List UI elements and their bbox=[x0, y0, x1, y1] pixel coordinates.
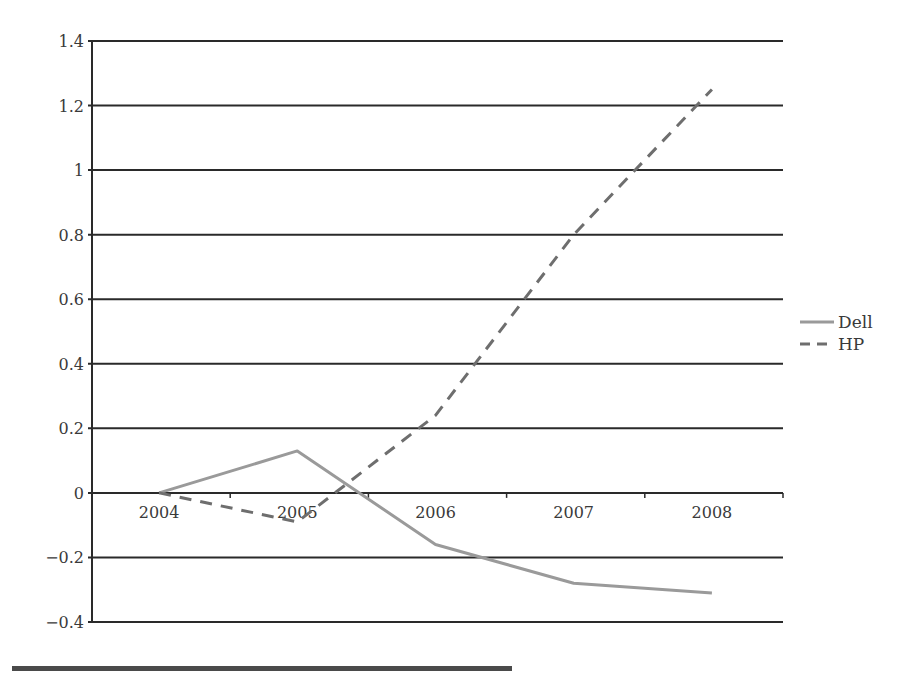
legend-label-hp: HP bbox=[838, 334, 864, 354]
gridlines bbox=[88, 41, 783, 622]
series-line-dell bbox=[159, 451, 712, 593]
x-axis: 20042005200620072008 bbox=[139, 493, 783, 522]
y-tick-label: −0.4 bbox=[45, 613, 84, 632]
x-tick-label: 2004 bbox=[139, 503, 180, 522]
y-tick-label: 0.2 bbox=[59, 419, 84, 438]
x-tick-label: 2008 bbox=[692, 503, 733, 522]
x-tick-label: 2007 bbox=[553, 503, 594, 522]
y-tick-label: 0 bbox=[74, 484, 84, 503]
series-line-hp bbox=[159, 89, 712, 522]
line-chart: 1.41.210.80.60.40.20−0.2−0.4 20042005200… bbox=[0, 0, 911, 682]
bottom-rule-divider bbox=[12, 666, 512, 671]
y-tick-label: 1.4 bbox=[59, 32, 84, 51]
y-tick-label: −0.2 bbox=[45, 548, 84, 567]
legend-label-dell: Dell bbox=[838, 312, 873, 332]
y-tick-label: 1.2 bbox=[59, 97, 84, 116]
legend: DellHP bbox=[800, 312, 873, 354]
y-axis: 1.41.210.80.60.40.20−0.2−0.4 bbox=[45, 32, 92, 632]
y-tick-label: 0.6 bbox=[59, 290, 84, 309]
x-tick-label: 2006 bbox=[415, 503, 456, 522]
y-tick-label: 0.8 bbox=[59, 226, 84, 245]
y-tick-label: 1 bbox=[74, 161, 84, 180]
y-tick-label: 0.4 bbox=[59, 355, 84, 374]
